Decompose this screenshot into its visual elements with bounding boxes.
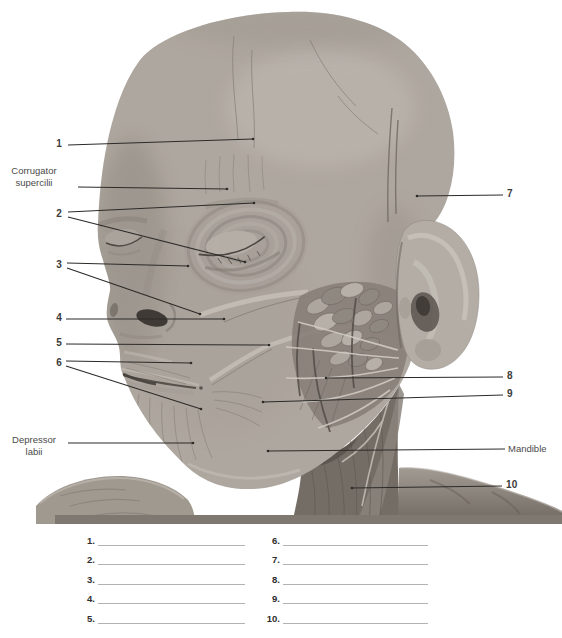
answer-number: 4. xyxy=(60,593,95,604)
answer-blank-9[interactable] xyxy=(283,592,428,604)
ear xyxy=(396,220,479,369)
figure-label-corrugator-supercilii: Corrugator supercilii xyxy=(2,165,66,188)
answer-blank-8[interactable] xyxy=(283,573,428,585)
answer-row: 3. xyxy=(60,572,245,585)
depressor-line1: Depressor xyxy=(2,434,66,446)
answer-number: 7. xyxy=(243,554,280,565)
answer-blank-3[interactable] xyxy=(98,573,245,585)
answer-blank-10[interactable] xyxy=(283,612,428,624)
figure-label-2: 2 xyxy=(30,208,62,219)
answer-row: 7. xyxy=(243,552,428,565)
answer-blank-5[interactable] xyxy=(98,612,245,624)
answer-blank-2[interactable] xyxy=(98,553,245,565)
answer-number: 5. xyxy=(60,613,95,624)
figure-label-5: 5 xyxy=(30,337,62,348)
answer-number: 6. xyxy=(243,535,280,546)
answer-number: 3. xyxy=(60,574,95,585)
answer-number: 2. xyxy=(60,554,95,565)
figure-label-3: 3 xyxy=(30,259,62,270)
answer-blank-4[interactable] xyxy=(98,592,245,604)
figure-label-10: 10 xyxy=(506,479,518,490)
figure-label-depressor-labii: Depressor labii xyxy=(2,434,66,457)
answer-blank-6[interactable] xyxy=(283,534,428,546)
answer-row: 8. xyxy=(243,572,428,585)
textbook-page: 1 Corrugator supercilii 2 3 4 5 6 Depres… xyxy=(0,0,562,638)
figure-label-mandible: Mandible xyxy=(508,443,547,454)
answer-column-1: 1. 2. 3. 4. 5. xyxy=(60,533,245,630)
answer-blank-7[interactable] xyxy=(283,553,428,565)
figure-label-6: 6 xyxy=(30,357,62,368)
corrugator-line2: supercilii xyxy=(2,177,66,189)
answer-row: 2. xyxy=(60,552,245,565)
answer-number: 1. xyxy=(60,535,95,546)
figure-label-8: 8 xyxy=(507,370,513,381)
figure-label-1: 1 xyxy=(30,138,62,149)
answer-row: 9. xyxy=(243,591,428,604)
answer-row: 4. xyxy=(60,591,245,604)
answer-row: 5. xyxy=(60,611,245,624)
answer-number: 10. xyxy=(243,613,280,624)
answer-blank-1[interactable] xyxy=(98,534,245,546)
answer-row: 10. xyxy=(243,611,428,624)
answer-number: 9. xyxy=(243,593,280,604)
answer-row: 1. xyxy=(60,533,245,546)
corrugator-line1: Corrugator xyxy=(2,165,66,177)
figure-label-7: 7 xyxy=(507,188,513,199)
figure-label-9: 9 xyxy=(507,388,513,399)
cadaver-photo xyxy=(0,0,562,525)
figure-label-4: 4 xyxy=(30,312,62,323)
answer-number: 8. xyxy=(243,574,280,585)
answer-row: 6. xyxy=(243,533,428,546)
depressor-line2: labii xyxy=(2,446,66,458)
answer-column-2: 6. 7. 8. 9. 10. xyxy=(243,533,428,630)
chest-edge xyxy=(55,515,562,524)
